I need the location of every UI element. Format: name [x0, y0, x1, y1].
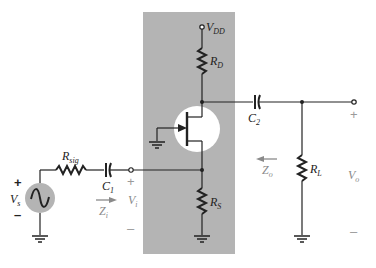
vs-plus-sign: +: [14, 176, 22, 189]
c1-label: C1: [102, 180, 114, 195]
rd-label: RD: [210, 55, 223, 70]
source-ground-icon: [32, 236, 48, 242]
zo-label: Zo: [262, 164, 273, 179]
vi-label: Vi: [128, 194, 138, 209]
vi-minus-sign: –: [127, 222, 134, 235]
vi-plus-sign: +: [127, 175, 135, 188]
vdd-label: VDD: [206, 21, 225, 36]
vs-minus-sign: –: [14, 208, 21, 221]
vo-plus-sign: +: [350, 108, 358, 121]
rsig-resistor: [56, 166, 86, 174]
c2-label: C2: [248, 112, 260, 127]
vo-label: Vo: [348, 169, 359, 184]
rs-label: RS: [210, 196, 221, 211]
rsig-label: Rsig: [62, 150, 79, 165]
rl-resistor: [298, 155, 306, 181]
zi-arrow-icon: [96, 197, 117, 203]
vi-terminal: [129, 168, 133, 172]
vo-terminal: [352, 100, 356, 104]
zi-label: Zi: [99, 205, 108, 220]
rl-ground-icon: [294, 236, 310, 242]
zo-arrow-icon: [256, 156, 277, 162]
rl-label: RL: [310, 163, 322, 178]
vo-minus-sign: –: [350, 225, 357, 238]
circuit-diagram: [0, 0, 376, 268]
vdd-terminal: [200, 25, 204, 29]
